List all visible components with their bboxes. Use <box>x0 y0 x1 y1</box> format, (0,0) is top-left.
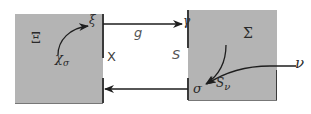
right-gap-label: S <box>172 48 180 61</box>
s-subscript: ν <box>224 81 230 92</box>
left-gap-label: X <box>107 50 116 63</box>
s-symbol: S <box>216 76 224 90</box>
chi-symbol: χ <box>55 50 63 65</box>
left-system-name: Ξ <box>31 31 41 45</box>
right-system-name: Σ <box>243 26 253 40</box>
xi-state-label: ξ <box>89 14 96 26</box>
arrows-layer <box>0 0 311 114</box>
system-diagram: Ξ ξ χσ g X S γ Σ Sν σ ν <box>0 0 311 114</box>
sigma-output-label: σ <box>193 82 202 95</box>
gamma-state-label: γ <box>183 15 190 27</box>
nu-external-label: ν <box>295 56 304 71</box>
s-nu-label: Sν <box>216 77 230 92</box>
chi-subscript: σ <box>63 58 69 68</box>
chi-sigma-label: χσ <box>55 51 69 68</box>
forward-map-label: g <box>134 26 142 39</box>
